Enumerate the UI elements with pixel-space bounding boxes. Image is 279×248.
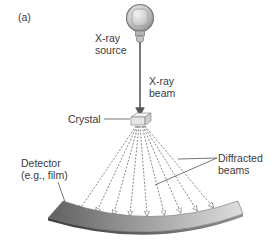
xray-source-label-line2: source bbox=[95, 44, 127, 56]
xray-source-icon bbox=[127, 5, 154, 43]
crystal-icon bbox=[131, 113, 151, 125]
panel-label: (a) bbox=[18, 11, 31, 23]
diffracted-beams-label-line2: beams bbox=[218, 164, 250, 176]
diffracted-beams-label-line1: Diffracted bbox=[218, 152, 263, 164]
detector-label-line1: Detector bbox=[21, 157, 61, 169]
diffracted-beams bbox=[80, 126, 212, 214]
detector-film bbox=[48, 201, 243, 235]
detector-label-line2: (e.g., film) bbox=[21, 169, 68, 181]
crystal-label: Crystal bbox=[68, 113, 101, 125]
xray-beam-label-line2: beam bbox=[149, 87, 175, 99]
leader-lines bbox=[58, 119, 217, 202]
xray-beam-label-line1: X-ray bbox=[149, 75, 174, 87]
xray-source-label-line1: X-ray bbox=[95, 32, 120, 44]
diffraction-diagram bbox=[0, 0, 279, 248]
